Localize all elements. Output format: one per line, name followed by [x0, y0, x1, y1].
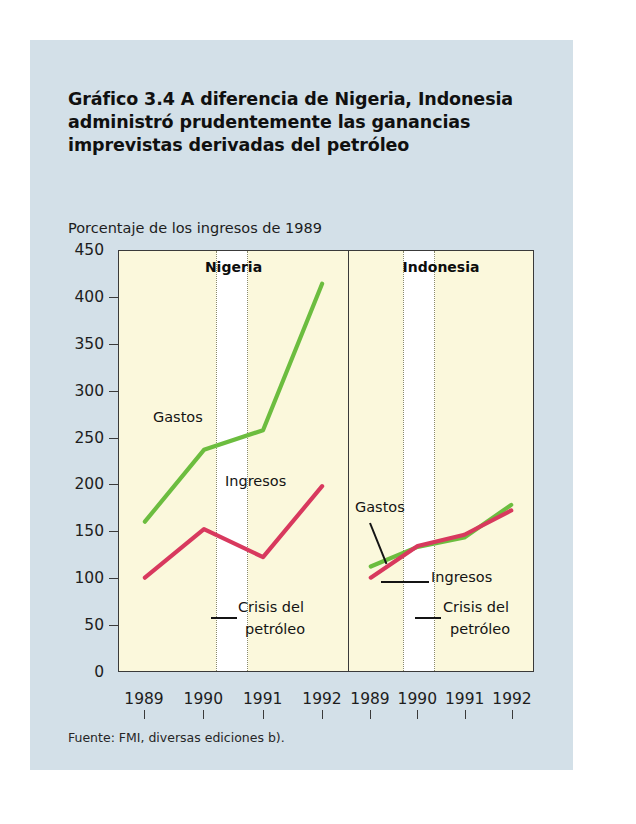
y-tick-label: 100	[74, 569, 104, 587]
annotation-crisis-indonesia-line1: Crisis del	[443, 599, 509, 615]
annotation-ingresos-nigeria: Ingresos	[225, 473, 286, 489]
x-tick-label: 1992	[302, 690, 341, 708]
y-tick-label: 50	[84, 616, 104, 634]
x-tick-mark	[322, 710, 323, 719]
y-axis: 050100150200250300350400450	[30, 250, 118, 672]
y-tick-mark	[109, 438, 118, 439]
crisis-leader-line-nigeria	[211, 617, 237, 619]
annotation-ingresos-indonesia: Ingresos	[431, 569, 492, 585]
y-tick-mark	[109, 625, 118, 626]
annotation-gastos-indonesia: Gastos	[355, 499, 405, 515]
x-tick-label: 1992	[492, 690, 531, 708]
x-tick-mark	[370, 710, 371, 719]
x-tick-label: 1990	[184, 690, 223, 708]
y-tick-label: 400	[74, 288, 104, 306]
y-tick-label: 300	[74, 382, 104, 400]
x-tick-mark	[144, 710, 145, 719]
panel-indonesia: Indonesia Gastos Ingresos Crisis del pet…	[348, 250, 534, 672]
x-tick-mark	[263, 710, 264, 719]
plot-area: Nigeria Gastos Ingresos Crisis del petró…	[118, 250, 534, 672]
x-axis: 19891990199119921989199019911992	[118, 680, 534, 710]
x-tick-label: 1989	[350, 690, 389, 708]
annotation-gastos-nigeria: Gastos	[153, 409, 203, 425]
y-tick-mark	[109, 391, 118, 392]
figure-title: Gráfico 3.4 A diferencia de Nigeria, Ind…	[68, 88, 538, 157]
x-tick-label: 1989	[124, 690, 163, 708]
y-tick-mark	[109, 297, 118, 298]
figure-panel: Gráfico 3.4 A diferencia de Nigeria, Ind…	[30, 40, 573, 770]
annotation-crisis-indonesia-line2: petróleo	[450, 621, 510, 637]
y-tick-label: 200	[74, 475, 104, 493]
annotation-crisis-nigeria-line1: Crisis del	[238, 599, 304, 615]
panel-nigeria: Nigeria Gastos Ingresos Crisis del petró…	[118, 250, 348, 672]
y-tick-label: 150	[74, 522, 104, 540]
y-tick-label: 0	[94, 663, 104, 681]
x-tick-mark	[203, 710, 204, 719]
line-ingresos	[145, 486, 322, 577]
y-tick-label: 450	[74, 241, 104, 259]
x-tick-label: 1991	[445, 690, 484, 708]
x-tick-mark	[512, 710, 513, 719]
y-tick-mark	[109, 484, 118, 485]
ingresos-leader-line-indonesia	[381, 581, 429, 583]
series-lines-nigeria	[119, 251, 348, 671]
x-tick-label: 1991	[243, 690, 282, 708]
crisis-leader-line-indonesia	[415, 617, 441, 619]
annotation-crisis-nigeria-line2: petróleo	[245, 621, 305, 637]
x-tick-label: 1990	[398, 690, 437, 708]
source-note: Fuente: FMI, diversas ediciones b).	[68, 730, 285, 745]
y-tick-mark	[109, 344, 118, 345]
x-tick-mark	[465, 710, 466, 719]
y-tick-mark	[109, 578, 118, 579]
y-tick-mark	[109, 531, 118, 532]
y-tick-label: 250	[74, 429, 104, 447]
y-tick-label: 350	[74, 335, 104, 353]
y-axis-title: Porcentaje de los ingresos de 1989	[68, 220, 322, 236]
x-tick-mark	[417, 710, 418, 719]
